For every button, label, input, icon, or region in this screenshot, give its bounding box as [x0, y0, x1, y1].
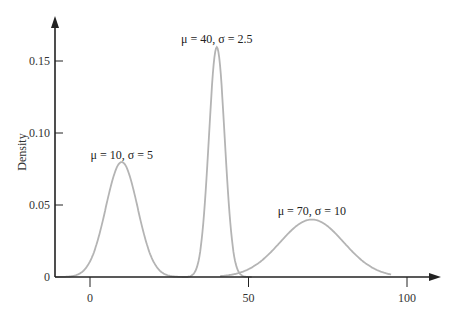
curve-annotations: μ = 10, σ = 5μ = 40, σ = 2.5μ = 70, σ = … [90, 32, 346, 217]
x-tick-label: 50 [243, 291, 255, 305]
curve-annotation-1: μ = 10, σ = 5 [90, 148, 152, 162]
density-curve-2 [182, 47, 252, 277]
curve-annotation-3: μ = 70, σ = 10 [278, 204, 346, 218]
x-tick-label: 100 [398, 291, 416, 305]
y-axis-label: Density [15, 133, 29, 170]
y-tick-label: 0.10 [29, 126, 50, 140]
x-axis-arrow-icon [429, 273, 441, 281]
density-curve-1 [55, 162, 188, 277]
density-curve-3 [220, 220, 391, 277]
y-tick-label: 0.05 [29, 198, 50, 212]
x-ticks: 050100 [87, 277, 416, 305]
density-curves [55, 47, 391, 277]
x-tick-label: 0 [87, 291, 93, 305]
normal-density-chart: 050100 00.050.100.15 Density μ = 10, σ =… [0, 0, 455, 313]
y-axis-arrow-icon [51, 16, 59, 28]
y-ticks: 00.050.100.15 [29, 54, 63, 284]
curve-annotation-2: μ = 40, σ = 2.5 [181, 32, 252, 46]
y-tick-label: 0 [44, 270, 50, 284]
y-tick-label: 0.15 [29, 54, 50, 68]
